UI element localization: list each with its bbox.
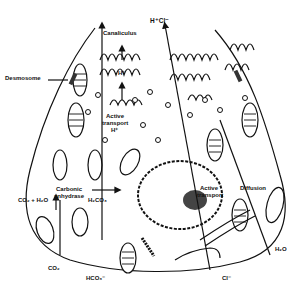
label-hco3: HCO₃⁻ xyxy=(86,275,105,281)
label-active-transport-h-1: Active xyxy=(106,113,125,119)
label-h2o: H₂O xyxy=(275,246,287,252)
label-carbonic-2: anhydrase xyxy=(54,193,85,199)
label-diffusion: Diffusion xyxy=(240,185,266,191)
diagram-canvas: H⁺Cl⁻ Canaliculus Desmosome H⁺ Active tr… xyxy=(0,0,303,294)
label-co2-h2o: CO₂ + H₂O xyxy=(18,197,49,203)
label-cl: Cl⁻ xyxy=(222,275,231,281)
label-active-transport-cl-1: Active xyxy=(200,185,219,191)
label-h2co3: H₂CO₃ xyxy=(88,197,107,203)
label-carbonic-1: Carbonic xyxy=(56,186,83,192)
label-hcl: H⁺Cl⁻ xyxy=(150,17,169,24)
label-active-transport-cl-2: transport xyxy=(197,192,223,198)
label-desmosome: Desmosome xyxy=(5,75,41,81)
label-co2: CO₂ xyxy=(48,265,60,271)
parietal-cell-diagram: H⁺Cl⁻ Canaliculus Desmosome H⁺ Active tr… xyxy=(0,0,303,294)
label-canaliculus: Canaliculus xyxy=(103,30,137,36)
label-active-transport-h-2: transport xyxy=(102,120,128,126)
label-active-transport-h-3: H⁺ xyxy=(111,127,118,133)
label-h-plus: H⁺ xyxy=(118,70,125,76)
